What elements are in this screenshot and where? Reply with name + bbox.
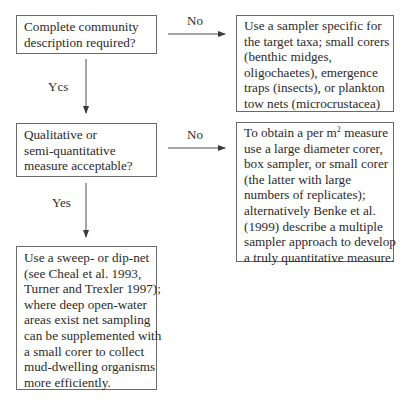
node-text-line: description required? xyxy=(24,35,150,51)
edge-label-yes: Yes xyxy=(52,196,71,210)
node-text-line: a small corer to collect xyxy=(24,344,150,360)
node-text-line: mud-dwelling organisms xyxy=(24,359,150,375)
outcome-target-taxa-sampler: Use a sampler specific for the target ta… xyxy=(236,15,394,112)
node-text-line: semi-quantitative xyxy=(24,143,150,159)
node-text-line: traps (insects), or plankton xyxy=(244,80,387,96)
node-text-line: numbers of replicates); xyxy=(244,187,387,203)
node-text-line: use a large diameter corer, xyxy=(244,141,387,157)
node-text-line: Complete community xyxy=(24,19,150,35)
node-text-line: (1999) describe a multiple xyxy=(244,219,387,235)
node-text-line: To obtain a per m2 measure xyxy=(244,125,387,141)
outcome-per-m2-measure: To obtain a per m2 measure use a large d… xyxy=(236,122,394,262)
node-text-line: (the latter with large xyxy=(244,172,387,188)
node-text-line: sampler approach to develop xyxy=(244,234,387,250)
node-text-line: areas exist net sampling xyxy=(24,312,150,328)
node-text-line: box sampler, or small corer xyxy=(244,156,387,172)
node-text-line: alternatively Benke et al. xyxy=(244,203,387,219)
node-text-line: tow nets (microcrustacea) xyxy=(244,96,387,112)
edge-label-no: No xyxy=(187,128,203,142)
node-text-line: more efficiently. xyxy=(24,375,150,391)
node-text-line: (see Cheal et al. 1993, xyxy=(24,266,150,282)
node-text-line: can be supplemented with xyxy=(24,328,150,344)
node-text-line: (benthic midges, xyxy=(244,49,387,65)
node-text-line: Turner and Trexler 1997); xyxy=(24,281,150,297)
node-text-line: Qualitative or xyxy=(24,127,150,143)
decision-complete-community: Complete community description required? xyxy=(16,15,157,54)
node-text-line: the target taxa; small corers xyxy=(244,34,387,50)
node-text-line: a truly quantitative measure. xyxy=(244,250,387,266)
text-fragment: measure xyxy=(341,125,388,140)
node-text-line: Use a sweep- or dip-net xyxy=(24,250,150,266)
node-text-line: where deep open-water xyxy=(24,297,150,313)
node-text-line: Use a sampler specific for xyxy=(244,18,387,34)
node-text-line: oligochaetes), emergence xyxy=(244,65,387,81)
text-fragment: To obtain a per m xyxy=(244,125,337,140)
outcome-sweep-dip-net: Use a sweep- or dip-net (see Cheal et al… xyxy=(16,246,157,390)
edge-label-yes: Ycs xyxy=(48,80,68,94)
node-text-line: measure acceptable? xyxy=(24,158,150,174)
edge-label-no: No xyxy=(187,14,203,28)
decision-qualitative-measure: Qualitative or semi-quantitative measure… xyxy=(16,123,157,177)
